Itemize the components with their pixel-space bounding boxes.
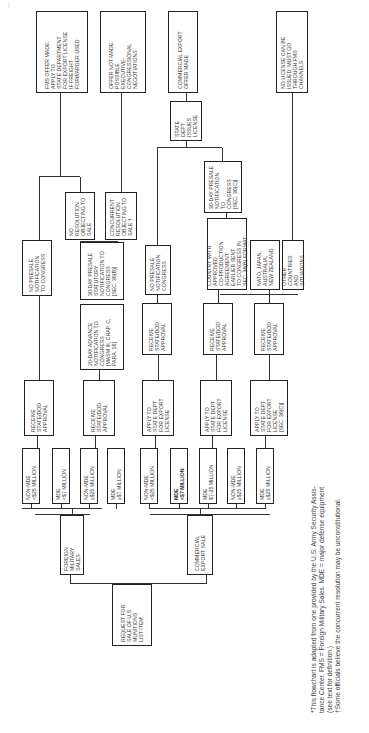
ces-value-mde-lt7: MDE <$7 MILLION: [170, 448, 188, 504]
footnotes: *This flowchart is adapted from one prov…: [310, 293, 342, 713]
fms-value-mde-lt7: MDE <$7 MILLION: [52, 448, 70, 504]
offer-not-made-box: OFFER NOT MADE. POSSIBLE EXECUTIVE- CONG…: [100, 11, 146, 93]
value-label: NON-MDE ≥$25 MILLION: [83, 466, 95, 500]
fms-value-nonmde-ge25: NON-MDE ≥$25 MILLION: [80, 448, 98, 504]
resolution-label: CONCURRENT RESOLUTION OBJECTING TO SALE …: [109, 198, 133, 236]
approval-label: RECEIVE STATE/DOD APPROVAL: [148, 322, 166, 351]
notify-label: 30-DAY PRESALE NOTIFICATION TO CONGRESS …: [208, 165, 238, 209]
ces-value-mde-ge25: MDE ≥$25 MILLION: [256, 448, 274, 504]
connector: [179, 504, 180, 509]
fms-30day-statutory-notification: 30-DAY PRESALE STATUTORY NOTIFICATION TO…: [80, 242, 124, 300]
connector: [35, 514, 90, 515]
outcome-label: OFFER NOT MADE. POSSIBLE EXECUTIVE- CONG…: [108, 41, 138, 89]
flowchart-canvas: … REQUEST FOR SALE OF U.S. MUNITIONS LIS…: [0, 0, 369, 733]
connector: [216, 355, 217, 380]
connector: [155, 436, 156, 448]
connector: [121, 93, 122, 192]
connector: [70, 583, 206, 584]
country-label: NATO, JAPAN, AUSTRALIA, NEW ZEALAND: [256, 249, 274, 286]
connector: [186, 141, 187, 148]
ces-apply-license-2: APPLY TO STATE DEPT FOR EXPORT LICENSE: [200, 380, 232, 436]
connector: [157, 295, 158, 303]
connector: [70, 575, 71, 584]
connector: [226, 213, 227, 218]
start-label: REQUEST FOR SALE OF U.S. MUNITIONS LIST …: [120, 605, 144, 642]
connector: [61, 504, 62, 509]
ces-apply-license-3: APPLY TO STATE DEPT FOR EXPORT LICENSE […: [250, 380, 288, 436]
value-label: MDE $7-25 MILLION: [202, 465, 214, 500]
apply-label: APPLY TO STATE DEPT FOR EXPORT LICENSE: [204, 398, 228, 432]
concurrent-resolution-objecting-box: CONCURRENT RESOLUTION OBJECTING TO SALE …: [105, 192, 137, 240]
value-label: NON-MDE ≥$25 MILLION: [230, 466, 242, 500]
outcome-label: FMS OFFER MADE. APPLY TO STATE DEPARTMEN…: [44, 32, 80, 89]
commercial-export-offer-made-box: COMMERCIAL EXPORT OFFER MADE: [168, 11, 198, 93]
connector: [116, 504, 117, 509]
country-label: OTHER COUNTRIES AND SITUATIONS: [281, 244, 305, 286]
value-label: NON-MDE <$25 MILLION: [143, 466, 155, 500]
connector: [150, 514, 270, 515]
fms-20day-advance-notification: 20-DAY ADVANCE NOTIFICATION TO CONGRESS …: [80, 304, 124, 370]
connector: [212, 436, 213, 448]
connector: [222, 148, 223, 161]
notify-label: 20-DAY ADVANCE NOTIFICATION TO CONGRESS …: [87, 319, 117, 366]
resolution-label: NO RESOLUTION OBJECTING TO SALE: [68, 196, 92, 236]
approval-label: RECEIVE STATE/DOD APPROVAL: [90, 403, 108, 432]
fms-value-nonmde-lt25: NON-MDE <$25 MILLION: [22, 448, 40, 504]
page-header-fragment: …: [4, 2, 10, 8]
country-coproduction-box: COUNTRY WITH APPROVED CO-PRODUCTION AGRE…: [207, 218, 247, 290]
ces-receive-approval-2: RECEIVE STATE/DOD APPROVAL: [203, 303, 233, 355]
value-label: MDE ≥$7 MILLION: [110, 469, 122, 500]
fms-label: FOREIGN MILITARY SALES: [63, 547, 81, 571]
no-license-box: NO LICENSE CAN BE ISSUED; MUST GO THROUG…: [276, 11, 308, 93]
value-label: NON-MDE <$25 MILLION: [25, 466, 37, 500]
connector: [37, 436, 38, 448]
fms-receive-approval-2: RECEIVE STATE/DOD APPROVAL: [83, 380, 115, 436]
ces-value-nonmde-ge25: NON-MDE ≥$25 MILLION: [227, 448, 245, 504]
ces-value-mde-7-25: MDE $7-25 MILLION: [199, 448, 217, 504]
connector: [236, 504, 237, 509]
ces-30day-presale-notification: 30-DAY PRESALE NOTIFICATION TO CONGRESS …: [204, 161, 242, 213]
connector: [220, 294, 298, 295]
connector: [186, 93, 187, 101]
ces-receive-approval-1: RECEIVE STATE/DOD APPROVAL: [142, 303, 172, 355]
connector: [218, 290, 219, 303]
outcome-label: STATE DEPT ISSUES LICENSE: [174, 105, 198, 137]
connector: [99, 370, 100, 380]
connector: [265, 436, 266, 448]
value-label: MDE <$7 MILLION: [55, 469, 67, 500]
ces-apply-license-1: APPLY TO STATE DEPT FOR EXPORT LICENSE: [142, 380, 174, 436]
country-other-box: OTHER COUNTRIES AND SITUATIONS: [282, 240, 304, 290]
outcome-label: NO LICENSE CAN BE ISSUED; MUST GO THROUG…: [280, 37, 304, 89]
ces-label: COMMERCIAL EXPORT SALE: [194, 535, 206, 571]
connector: [265, 504, 266, 509]
approval-label: RECEIVE STATE/DOD APPROVAL: [30, 403, 48, 432]
notify-label: NO PRESALE NOTIFICATION TO CONGRESS: [28, 254, 46, 292]
foreign-military-sales-box: FOREIGN MILITARY SALES: [60, 515, 84, 575]
connector: [31, 504, 32, 509]
connector: [72, 509, 73, 515]
connector: [208, 504, 209, 509]
country-nato-japan-box: NATO, JAPAN, AUSTRALIA, NEW ZEALAND: [250, 240, 280, 290]
commercial-export-sale-box: COMMERCIAL EXPORT SALE: [187, 515, 213, 575]
ces-receive-approval-3: RECEIVE STATE/DOD APPROVAL: [254, 303, 284, 355]
outcome-label: COMMERCIAL EXPORT OFFER MADE: [177, 31, 189, 89]
start-request-box: REQUEST FOR SALE OF U.S. MUNITIONS LIST …: [112, 584, 152, 646]
connector: [200, 509, 201, 515]
value-label: MDE ≥$25 MILLION: [259, 466, 271, 500]
connector: [149, 504, 150, 509]
connector: [39, 360, 40, 380]
apply-label: APPLY TO STATE DEPT FOR EXPORT LICENSE: [146, 398, 170, 432]
notify-label: NO PRESALE NOTIFICATION CONGRESS: [149, 255, 167, 291]
apply-label: APPLY TO STATE DEPT FOR EXPORT LICENSE […: [254, 398, 284, 432]
ces-value-nonmde-lt25: NON-MDE <$25 MILLION: [140, 448, 158, 504]
fms-no-presale-notification: NO PRESALE NOTIFICATION TO CONGRESS: [22, 240, 52, 296]
connector: [39, 296, 40, 360]
connector: [292, 190, 293, 240]
fms-value-mde-ge7: MDE ≥$7 MILLION: [107, 448, 125, 504]
connector: [80, 177, 81, 192]
connector: [269, 355, 270, 380]
connector: [95, 436, 96, 448]
state-dept-issues-license-box: STATE DEPT ISSUES LICENSE: [170, 101, 202, 141]
connector: [157, 147, 222, 148]
approval-label: RECEIVE STATE/DOD APPROVAL: [260, 322, 278, 351]
